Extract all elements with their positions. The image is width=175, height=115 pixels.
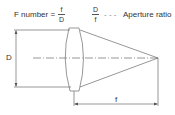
fraction-bar — [58, 14, 65, 15]
aperture-ratio-fraction: D f — [92, 6, 99, 23]
diameter-arrow-top-icon — [15, 30, 18, 34]
aperture-ratio-leader: - - - — [104, 11, 116, 19]
f-number-numerator: f — [61, 6, 63, 13]
aperture-ratio-denominator: f — [95, 16, 97, 23]
aperture-ratio-numerator: D — [93, 6, 98, 13]
focal-length-label: f — [115, 96, 117, 104]
focal-arrow-right-icon — [154, 103, 158, 106]
aperture-diagram: F number = f D D f - - - Aperture ratio … — [0, 0, 175, 115]
aperture-ratio-label: Aperture ratio — [123, 11, 171, 19]
f-number-label: F number = — [14, 11, 55, 19]
lens-shape — [65, 28, 83, 91]
f-number-denominator: D — [59, 16, 64, 23]
diameter-label: D — [6, 54, 12, 62]
f-number-fraction: f D — [58, 6, 65, 23]
fraction-bar — [92, 14, 99, 15]
focal-arrow-left-icon — [74, 103, 78, 106]
diameter-arrow-bottom-icon — [15, 83, 18, 87]
upper-ray — [80, 30, 158, 58]
lower-ray — [80, 58, 158, 87]
